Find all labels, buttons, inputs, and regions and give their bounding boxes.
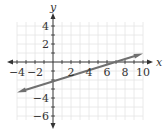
- line-arrow-left-icon: [17, 88, 27, 93]
- x-tick-label: −4: [9, 66, 25, 79]
- y-tick-label: 2: [42, 38, 49, 51]
- x-tick-label: 4: [86, 66, 93, 79]
- x-axis-arrow-right-icon: [147, 60, 153, 65]
- coordinate-plane: −4 −2 2 4 6 8 10 4 2 −4 −6 x y: [0, 0, 166, 132]
- y-tick-label: −4: [33, 92, 49, 105]
- x-axis-label: x: [156, 56, 163, 69]
- x-axis-arrow-left-icon: [7, 60, 13, 65]
- x-tick-label: 6: [104, 66, 111, 79]
- y-tick-label: −6: [33, 110, 49, 123]
- x-tick-label: 8: [122, 66, 129, 79]
- y-axis-arrow-down-icon: [51, 123, 56, 129]
- x-tick-label: 10: [136, 66, 150, 79]
- line-arrow-right-icon: [134, 54, 144, 59]
- x-tick-label: −2: [27, 66, 43, 79]
- x-tick-label: 2: [68, 66, 75, 79]
- y-tick-label: 4: [42, 20, 49, 33]
- y-axis-label: y: [49, 1, 57, 14]
